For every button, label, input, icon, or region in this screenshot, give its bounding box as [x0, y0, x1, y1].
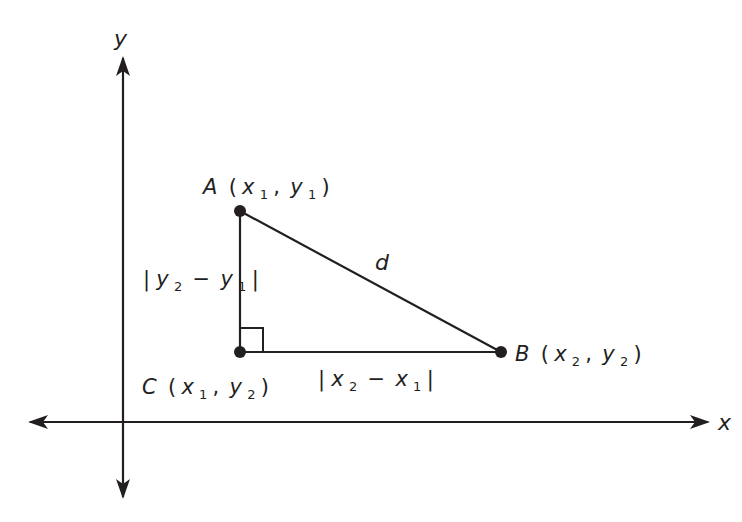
- segment-ab-hypotenuse: [240, 211, 501, 352]
- point-c: [234, 346, 246, 358]
- svg-text:A ( x 1: A ( x 1 , y 1 ): [201, 175, 330, 204]
- label-point-a: A ( x 1 , y 1 ): [201, 175, 330, 204]
- label-vertical-length: | y 2 − y 1 |: [143, 267, 259, 296]
- point-b: [495, 346, 507, 358]
- distance-diagram: x y A ( x 1 , y 1 ) B ( x 2 , y 2 ): [0, 0, 742, 522]
- y-axis-label: y: [113, 26, 128, 51]
- label-horizontal-length: | x 2 − x 1 |: [318, 367, 434, 396]
- svg-text:| x 2 −: | x 2 − x 1 |: [318, 367, 434, 396]
- label-distance-d: d: [375, 250, 390, 275]
- svg-text:C ( x 1: C ( x 1 , y 2 ): [142, 375, 269, 404]
- point-a: [234, 205, 246, 217]
- label-point-c: C ( x 1 , y 2 ): [142, 375, 269, 404]
- svg-text:B ( x 2: B ( x 2 , y 2 ): [515, 342, 642, 371]
- svg-text:| y 2 −: | y 2 − y 1 |: [143, 267, 259, 296]
- label-point-b: B ( x 2 , y 2 ): [515, 342, 642, 371]
- x-axis-label: x: [717, 410, 732, 435]
